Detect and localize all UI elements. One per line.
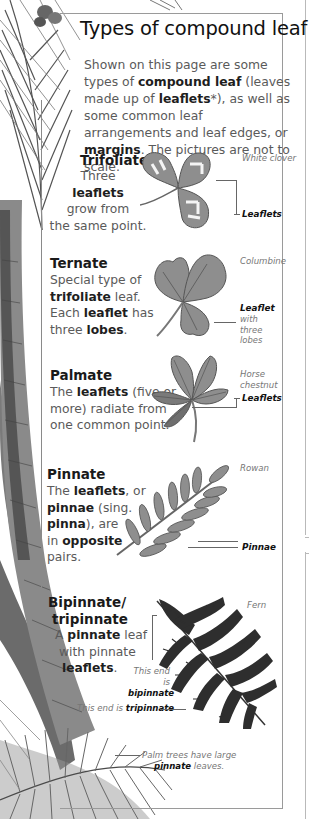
intro-term: leaflets: [159, 91, 211, 106]
desc-text: leaf: [120, 628, 147, 642]
ternate-heading: Ternate: [50, 255, 108, 271]
rowan-caption: Rowan: [240, 463, 269, 474]
desc-text: three: [50, 323, 86, 337]
bipinnate-heading: Bipinnate/: [48, 594, 126, 610]
label-term: bipinnate: [128, 688, 170, 699]
leader-line: [216, 180, 236, 181]
caption-term: pinnate: [154, 761, 191, 771]
rowan-leaf-illustration: [115, 460, 230, 565]
leader-line: [192, 407, 236, 408]
leader-line: [234, 398, 240, 399]
leader-line: [160, 709, 186, 710]
desc-text: A: [55, 628, 67, 642]
desc-text: ), are: [86, 517, 119, 531]
desc-text: Each: [50, 306, 84, 320]
leaflet-sublabel: with three lobes: [240, 314, 280, 346]
page-edge-line: [305, 552, 306, 819]
desc-text: .: [124, 323, 128, 337]
leaflets-label: Leaflets: [242, 209, 282, 219]
palm-caption: Palm trees have large pinnate leaves.: [142, 750, 236, 772]
desc-text: .: [114, 661, 118, 675]
leader-line: [188, 547, 238, 548]
desc-line: Special type of: [50, 272, 160, 289]
palmate-heading: Palmate: [50, 367, 112, 383]
desc-text: in: [47, 534, 62, 548]
ternate-description: Special type of trifoliate leaf. Each le…: [50, 272, 160, 338]
desc-text: leaf.: [111, 290, 141, 304]
intro-term: compound leaf: [138, 74, 241, 89]
leaflets-label: Leaflets: [242, 393, 282, 403]
fern-leaf-illustration: [155, 595, 280, 735]
leader-line: [236, 180, 237, 214]
desc-term: leaflets: [62, 661, 114, 675]
desc-term: leaflet: [84, 306, 128, 320]
desc-term: leaflets: [77, 385, 129, 399]
horse-chestnut-caption: Horse chestnut: [240, 369, 280, 391]
desc-term: leaflets: [72, 186, 124, 200]
desc-text: The: [47, 484, 74, 498]
trifoliate-heading: Trifoliate: [80, 152, 148, 168]
desc-line: grow from: [48, 201, 148, 218]
desc-line: with pinnate: [55, 644, 165, 661]
leader-line: [115, 755, 140, 756]
columbine-caption: Columbine: [240, 256, 286, 267]
fern-caption: Fern: [247, 600, 266, 611]
leader-line: [198, 541, 238, 542]
desc-line: Three: [48, 168, 148, 185]
columbine-leaf-illustration: [145, 250, 235, 340]
desc-term: lobes: [86, 323, 123, 337]
page-edge-tick: [305, 537, 309, 538]
label-text: This end is: [77, 703, 126, 713]
caption-text: leaves.: [191, 761, 224, 771]
desc-term: trifoliate: [50, 290, 111, 304]
trifoliate-description: Three leaflets grow from the same point.: [48, 168, 148, 234]
leaflet-label: Leaflet: [240, 303, 275, 313]
pinnae-label: Pinnae: [242, 542, 276, 552]
desc-term: pinnate: [67, 628, 120, 642]
desc-term: opposite: [62, 534, 122, 548]
label-term: tripinnate: [126, 703, 174, 713]
box-left-rule: [41, 100, 42, 620]
page-edge-line: [305, 0, 306, 535]
desc-text: The: [50, 385, 77, 399]
desc-term: pinnae: [47, 501, 94, 515]
desc-line: the same point.: [48, 218, 148, 235]
clover-leaf-illustration: [140, 150, 220, 235]
caption-text: Palm trees have large: [142, 750, 236, 761]
desc-term: pinna: [47, 517, 86, 531]
page-title: Types of compound leaf: [80, 17, 307, 40]
leader-line: [236, 398, 237, 408]
tripinnate-heading: tripinnate: [52, 611, 128, 627]
label-text: This end is: [128, 666, 170, 688]
pinnate-heading: Pinnate: [47, 466, 105, 482]
clover-caption: White clover: [242, 153, 296, 164]
leader-line: [214, 322, 236, 323]
bipinnate-end-label: This end is bipinnate: [128, 666, 170, 699]
leader-line: [234, 214, 240, 215]
leader-line: [152, 615, 153, 660]
horse-chestnut-leaf-illustration: [150, 350, 235, 445]
